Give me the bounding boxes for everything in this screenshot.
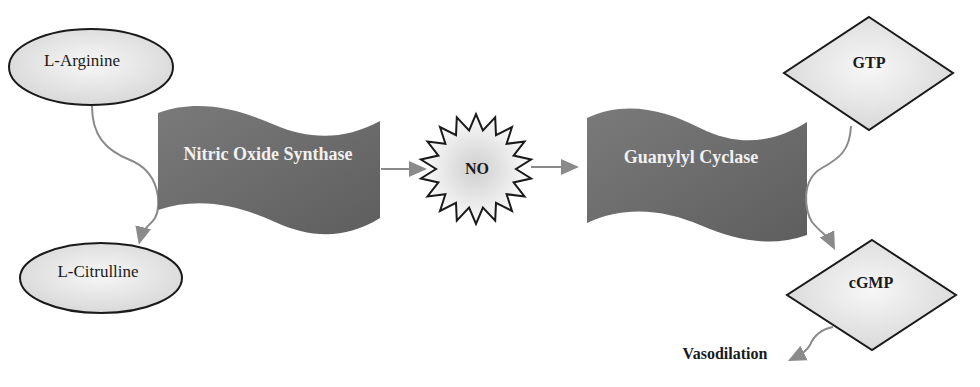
l-citrulline-label: L-Citrulline	[57, 262, 138, 282]
nitric-oxide-synthase-label: Nitric Oxide Synthase	[184, 144, 353, 165]
no-label: NO	[465, 160, 489, 178]
cgmp-node	[787, 240, 956, 350]
nitric-oxide-pathway-diagram: L-Arginine L-Citrulline Nitric Oxide Syn…	[0, 0, 980, 387]
arginine-to-citrulline-arrow	[92, 106, 158, 236]
vasodilation-label: Vasodilation	[683, 345, 768, 363]
diagram-canvas	[0, 0, 980, 387]
guanylyl-cyclase-banner	[587, 109, 807, 242]
guanylyl-cyclase-label: Guanylyl Cyclase	[624, 147, 759, 168]
gtp-to-cgmp-arrow	[806, 126, 851, 242]
gtp-node	[784, 17, 953, 130]
gtp-label: GTP	[853, 54, 886, 72]
cgmp-to-vasodilation-arrow	[796, 327, 833, 357]
l-arginine-label: L-Arginine	[44, 51, 120, 71]
cgmp-label: cGMP	[849, 274, 893, 292]
nitric-oxide-synthase-banner	[158, 106, 380, 234]
